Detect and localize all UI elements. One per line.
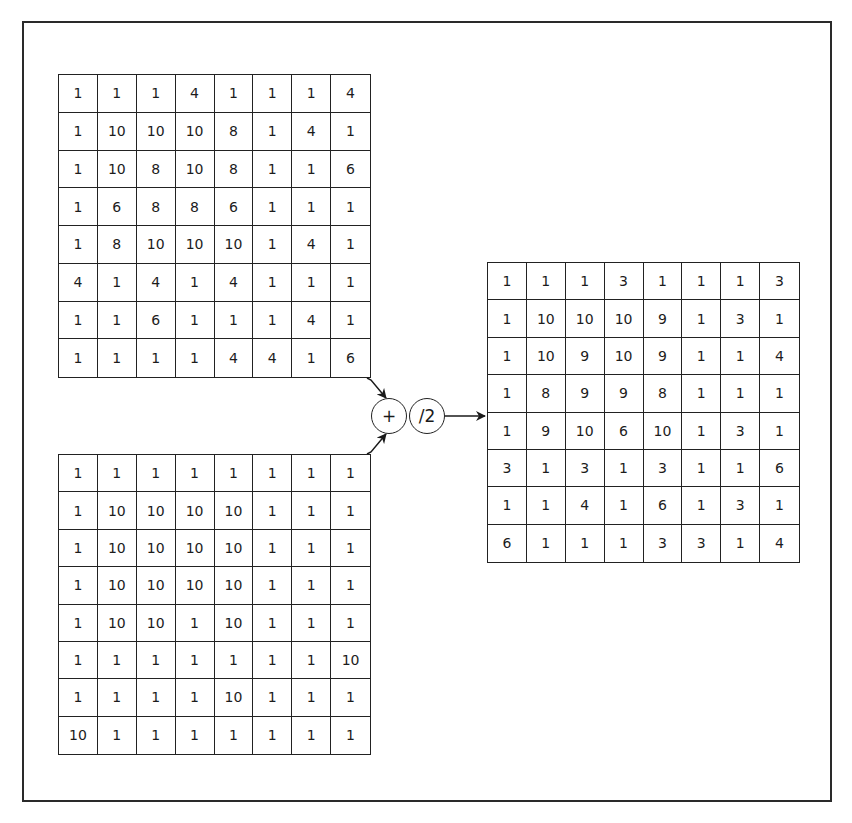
matrix-cell: 6 bbox=[137, 302, 176, 340]
matrix-cell: 1 bbox=[292, 717, 331, 754]
matrix-cell: 1 bbox=[331, 188, 370, 226]
matrix-cell: 1 bbox=[176, 264, 215, 302]
matrix-cell: 1 bbox=[292, 492, 331, 529]
matrix-cell: 8 bbox=[98, 226, 137, 264]
matrix-cell: 1 bbox=[137, 717, 176, 754]
matrix-cell: 3 bbox=[605, 263, 644, 300]
matrix-cell: 10 bbox=[331, 642, 370, 679]
matrix-cell: 1 bbox=[137, 455, 176, 492]
matrix-cell: 1 bbox=[215, 642, 254, 679]
matrix-cell: 3 bbox=[721, 300, 760, 337]
divide-by-two-operator: /2 bbox=[409, 398, 445, 434]
matrix-cell: 1 bbox=[59, 302, 98, 340]
matrix-cell: 8 bbox=[215, 151, 254, 189]
matrix-cell: 8 bbox=[137, 188, 176, 226]
matrix-cell: 1 bbox=[605, 525, 644, 562]
matrix-cell: 1 bbox=[253, 679, 292, 716]
matrix-cell: 1 bbox=[760, 300, 799, 337]
matrix-cell: 3 bbox=[721, 487, 760, 524]
matrix-cell: 1 bbox=[644, 263, 683, 300]
matrix-cell: 10 bbox=[59, 717, 98, 754]
matrix-cell: 1 bbox=[331, 605, 370, 642]
matrix-cell: 10 bbox=[566, 413, 605, 450]
matrix-cell: 1 bbox=[331, 302, 370, 340]
matrix-cell: 4 bbox=[566, 487, 605, 524]
matrix-cell: 1 bbox=[137, 75, 176, 113]
matrix-cell: 1 bbox=[292, 605, 331, 642]
matrix-cell: 4 bbox=[176, 75, 215, 113]
matrix-cell: 1 bbox=[98, 455, 137, 492]
matrix-cell: 1 bbox=[488, 413, 527, 450]
matrix-cell: 1 bbox=[215, 717, 254, 754]
matrix-cell: 1 bbox=[331, 679, 370, 716]
matrix-cell: 1 bbox=[253, 264, 292, 302]
matrix-cell: 1 bbox=[253, 492, 292, 529]
matrix-cell: 4 bbox=[253, 339, 292, 377]
matrix-cell: 1 bbox=[59, 226, 98, 264]
matrix-cell: 4 bbox=[760, 525, 799, 562]
matrix-cell: 1 bbox=[59, 75, 98, 113]
matrix-cell: 1 bbox=[59, 455, 98, 492]
matrix-cell: 1 bbox=[253, 642, 292, 679]
matrix-cell: 10 bbox=[215, 679, 254, 716]
matrix-cell: 10 bbox=[137, 530, 176, 567]
matrix-cell: 1 bbox=[253, 226, 292, 264]
matrix-cell: 1 bbox=[253, 188, 292, 226]
matrix-cell: 1 bbox=[253, 530, 292, 567]
matrix-cell: 1 bbox=[331, 113, 370, 151]
matrix-cell: 10 bbox=[98, 567, 137, 604]
matrix-cell: 1 bbox=[176, 339, 215, 377]
matrix-cell: 9 bbox=[644, 300, 683, 337]
matrix-cell: 1 bbox=[98, 264, 137, 302]
matrix-cell: 9 bbox=[644, 338, 683, 375]
matrix-cell: 1 bbox=[98, 339, 137, 377]
matrix-cell: 1 bbox=[331, 492, 370, 529]
matrix-cell: 4 bbox=[292, 302, 331, 340]
matrix-cell: 1 bbox=[253, 455, 292, 492]
matrix-cell: 1 bbox=[527, 263, 566, 300]
matrix-cell: 6 bbox=[98, 188, 137, 226]
matrix-cell: 3 bbox=[566, 450, 605, 487]
matrix-cell: 1 bbox=[176, 302, 215, 340]
matrix-cell: 1 bbox=[137, 642, 176, 679]
matrix-cell: 1 bbox=[721, 338, 760, 375]
input-matrix-a: 1114111411010108141110810811616886111181… bbox=[58, 74, 371, 378]
matrix-cell: 1 bbox=[682, 487, 721, 524]
matrix-cell: 9 bbox=[566, 375, 605, 412]
matrix-cell: 4 bbox=[760, 338, 799, 375]
matrix-cell: 1 bbox=[331, 226, 370, 264]
matrix-cell: 1 bbox=[59, 642, 98, 679]
matrix-cell: 1 bbox=[488, 338, 527, 375]
matrix-cell: 10 bbox=[137, 567, 176, 604]
matrix-cell: 1 bbox=[760, 487, 799, 524]
matrix-cell: 10 bbox=[176, 113, 215, 151]
matrix-cell: 6 bbox=[644, 487, 683, 524]
matrix-cell: 1 bbox=[527, 450, 566, 487]
matrix-cell: 1 bbox=[331, 264, 370, 302]
matrix-cell: 3 bbox=[644, 450, 683, 487]
matrix-cell: 4 bbox=[59, 264, 98, 302]
matrix-cell: 10 bbox=[215, 567, 254, 604]
matrix-cell: 1 bbox=[215, 75, 254, 113]
matrix-cell: 1 bbox=[331, 717, 370, 754]
matrix-cell: 6 bbox=[331, 339, 370, 377]
matrix-cell: 1 bbox=[760, 413, 799, 450]
matrix-cell: 8 bbox=[644, 375, 683, 412]
matrix-cell: 3 bbox=[682, 525, 721, 562]
matrix-cell: 8 bbox=[215, 113, 254, 151]
matrix-cell: 1 bbox=[292, 75, 331, 113]
matrix-cell: 1 bbox=[331, 455, 370, 492]
matrix-cell: 1 bbox=[488, 487, 527, 524]
matrix-cell: 6 bbox=[215, 188, 254, 226]
matrix-cell: 1 bbox=[331, 567, 370, 604]
matrix-cell: 1 bbox=[59, 530, 98, 567]
matrix-cell: 1 bbox=[292, 151, 331, 189]
matrix-cell: 1 bbox=[682, 450, 721, 487]
matrix-cell: 10 bbox=[215, 530, 254, 567]
matrix-cell: 1 bbox=[527, 487, 566, 524]
matrix-cell: 3 bbox=[488, 450, 527, 487]
matrix-cell: 10 bbox=[176, 530, 215, 567]
matrix-cell: 1 bbox=[253, 75, 292, 113]
matrix-cell: 1 bbox=[682, 375, 721, 412]
matrix-cell: 8 bbox=[176, 188, 215, 226]
